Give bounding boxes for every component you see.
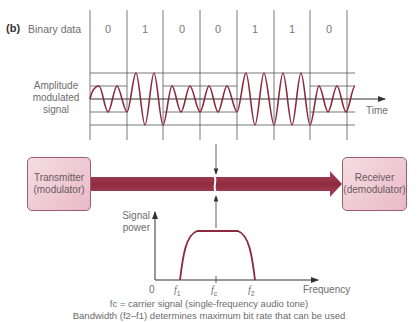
- am-signal-label: Amplitude modulated signal: [28, 80, 84, 116]
- time-label: Time: [366, 105, 388, 117]
- bit-2: 0: [164, 23, 200, 35]
- transmission-channel-arrow: [90, 171, 342, 197]
- caption-line-2: Bandwidth (f2–f1) determines maximum bit…: [0, 310, 418, 322]
- transmitter-box: Transmitter (modulator): [27, 157, 91, 211]
- part-label: (b): [6, 22, 20, 34]
- spectrum-curve: [180, 231, 255, 280]
- bit-4: 1: [237, 23, 273, 35]
- bit-1: 1: [127, 23, 163, 35]
- frequency-label: Frequency: [303, 284, 350, 296]
- binary-data-label: Binary data: [28, 23, 81, 35]
- bit-5: 1: [274, 23, 310, 35]
- am-waveform: [90, 73, 355, 125]
- bit-6: 0: [311, 23, 347, 35]
- caption-line-1: fc = carrier signal (single-frequency au…: [0, 298, 418, 310]
- bit-3: 0: [200, 23, 236, 35]
- signal-power-label: Signal power: [118, 210, 150, 234]
- receiver-box: Receiver (demodulator): [342, 157, 407, 211]
- origin-label: 0: [149, 284, 155, 296]
- bit-0: 0: [90, 23, 126, 35]
